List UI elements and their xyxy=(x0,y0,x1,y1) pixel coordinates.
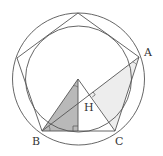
label-B: B xyxy=(32,135,40,148)
label-H: H xyxy=(84,101,94,114)
label-C: C xyxy=(115,135,123,148)
label-A: A xyxy=(143,46,153,59)
light-shaded-region xyxy=(90,57,139,131)
pentagon-circle-diagram: A B C H xyxy=(0,0,163,156)
